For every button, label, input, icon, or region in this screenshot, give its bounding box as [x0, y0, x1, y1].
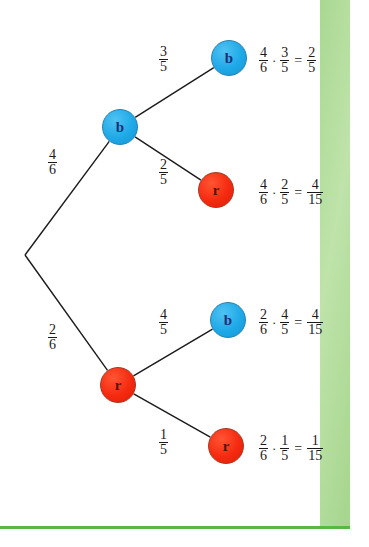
branch-prob-b-to-b-denominator: 5 [159, 59, 168, 74]
branch-probability-b-to-r: 25 [158, 158, 169, 188]
node-label: r [213, 182, 220, 199]
branch-prob-r-to-b-numerator: 4 [159, 308, 168, 322]
outcome-equation-result-br: 46·25=415 [258, 178, 324, 208]
branch-line-root-to-b [25, 141, 109, 255]
result-br-second-fraction-numerator: 2 [280, 178, 289, 192]
node-label: b [225, 50, 233, 67]
node-label: r [115, 377, 122, 394]
tree-node-leaf-bb[interactable]: b [211, 40, 247, 76]
branch-prob-root-to-b-denominator: 6 [48, 162, 57, 177]
result-rr-second-fraction: 15 [280, 434, 289, 464]
branch-prob-b-to-r-denominator: 5 [159, 172, 168, 187]
result-rb-first-fraction: 26 [259, 308, 268, 338]
result-bb-second-fraction-denominator: 5 [280, 60, 289, 75]
branch-probability-root-to-b: 46 [47, 148, 58, 178]
branch-prob-b-to-b: 35 [159, 45, 168, 75]
result-rb-first-fraction-denominator: 6 [259, 322, 268, 337]
tree-node-level1-r[interactable]: r [100, 367, 136, 403]
diagram-page: brbrbr 462635254515 46·35=2546·25=41526·… [0, 0, 369, 547]
result-bb-multiply-operator: · [272, 53, 276, 69]
result-rr-product-fraction: 115 [307, 434, 323, 464]
result-rr-product-fraction-denominator: 15 [307, 448, 323, 463]
result-bb-second-fraction-numerator: 3 [280, 46, 289, 60]
result-br-second-fraction: 25 [280, 178, 289, 208]
branch-probability-r-to-b: 45 [158, 308, 169, 338]
result-rr-second-fraction-denominator: 5 [280, 448, 289, 463]
result-rb-second-fraction-numerator: 4 [280, 308, 289, 322]
tree-node-level1-b[interactable]: b [102, 109, 138, 145]
branch-prob-root-to-r: 26 [48, 323, 57, 353]
branch-probability-root-to-r: 26 [47, 323, 58, 353]
result-rb-multiply-operator: · [272, 315, 276, 331]
result-bb-first-fraction-denominator: 6 [259, 60, 268, 75]
result-rb-first-fraction-numerator: 2 [259, 308, 268, 322]
branch-prob-root-to-r-numerator: 2 [48, 323, 57, 337]
result-br-first-fraction: 46 [259, 178, 268, 208]
result-bb-second-fraction: 35 [280, 46, 289, 76]
branch-prob-r-to-r-denominator: 5 [159, 442, 168, 457]
outcome-equation-result-bb: 46·35=25 [258, 46, 317, 76]
branch-prob-r-to-b-denominator: 5 [159, 322, 168, 337]
result-bb-product-fraction-denominator: 5 [307, 60, 316, 75]
result-br-first-fraction-numerator: 4 [259, 178, 268, 192]
result-br-equals-sign: = [294, 185, 302, 201]
result-bb-product-fraction-numerator: 2 [307, 46, 316, 60]
branch-prob-root-to-b: 46 [48, 148, 57, 178]
page-edge-right [350, 0, 369, 547]
branch-line-b-to-b [135, 68, 214, 118]
result-bb-first-fraction: 46 [259, 46, 268, 76]
result-rb-equals-sign: = [294, 315, 302, 331]
branch-line-r-to-b [133, 329, 212, 376]
result-rr-second-fraction-numerator: 1 [280, 434, 289, 448]
result-br-product-fraction: 415 [307, 178, 323, 208]
result-bb-product-fraction: 25 [307, 46, 316, 76]
tree-node-leaf-rb[interactable]: b [210, 302, 246, 338]
result-rb-second-fraction-denominator: 5 [280, 322, 289, 337]
result-br-product-fraction-denominator: 15 [307, 192, 323, 207]
result-br-second-fraction-denominator: 5 [280, 192, 289, 207]
result-rr-first-fraction-numerator: 2 [259, 434, 268, 448]
result-bb-first-fraction-numerator: 4 [259, 46, 268, 60]
branch-line-r-to-r [134, 394, 211, 437]
outcome-equation-result-rb: 26·45=415 [258, 308, 324, 338]
result-br-product-fraction-numerator: 4 [311, 178, 320, 192]
branch-prob-r-to-b: 45 [159, 308, 168, 338]
branch-prob-r-to-r: 15 [159, 428, 168, 458]
branch-prob-b-to-b-numerator: 3 [159, 45, 168, 59]
branch-probability-r-to-r: 15 [158, 428, 169, 458]
result-rr-multiply-operator: · [272, 441, 276, 457]
branch-prob-root-to-b-numerator: 4 [48, 148, 57, 162]
branch-line-root-to-r [25, 255, 108, 370]
result-rb-second-fraction: 45 [280, 308, 289, 338]
result-br-first-fraction-denominator: 6 [259, 192, 268, 207]
branch-prob-b-to-r-numerator: 2 [159, 158, 168, 172]
branch-prob-root-to-r-denominator: 6 [48, 337, 57, 352]
result-br-multiply-operator: · [272, 185, 276, 201]
result-rb-product-fraction: 415 [307, 308, 323, 338]
result-rr-product-fraction-numerator: 1 [311, 434, 320, 448]
tree-node-leaf-rr[interactable]: r [208, 428, 244, 464]
node-label: b [116, 119, 124, 136]
node-label: r [223, 438, 230, 455]
branch-probability-b-to-b: 35 [158, 45, 169, 75]
result-bb-equals-sign: = [294, 53, 302, 69]
outcome-equation-result-rr: 26·15=115 [258, 434, 324, 464]
page-edge-bottom [0, 529, 369, 547]
result-rr-first-fraction-denominator: 6 [259, 448, 268, 463]
branch-prob-r-to-r-numerator: 1 [159, 428, 168, 442]
result-rb-product-fraction-numerator: 4 [311, 308, 320, 322]
tree-node-leaf-br[interactable]: r [198, 172, 234, 208]
tree-branches [0, 0, 369, 547]
result-rr-equals-sign: = [294, 441, 302, 457]
node-label: b [224, 312, 232, 329]
result-rb-product-fraction-denominator: 15 [307, 322, 323, 337]
branch-prob-b-to-r: 25 [159, 158, 168, 188]
result-rr-first-fraction: 26 [259, 434, 268, 464]
